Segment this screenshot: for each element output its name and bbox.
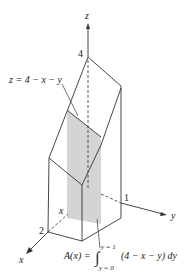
y-axis-label: y (170, 210, 176, 221)
x-axis-hidden (48, 214, 68, 232)
y-tick-label: 1 (124, 192, 129, 203)
integrand: (4 − x − y) dy (121, 250, 178, 262)
diagram-svg: z 4 z = 4 − x − y 1 y x 2 x A(x) = ∫ y =… (0, 0, 191, 276)
lower-limit: y = 0 (98, 264, 114, 272)
y-axis-arrow-icon (160, 212, 167, 216)
cross-section-shade (67, 110, 101, 224)
y-axis-hidden (101, 194, 121, 203)
x-slice-label: x (58, 205, 64, 216)
solid-volume-diagram: z 4 z = 4 − x − y 1 y x 2 x A(x) = ∫ y =… (0, 0, 191, 276)
x-axis-label: x (18, 254, 24, 265)
upper-limit: y = 1 (100, 243, 116, 251)
y-axis (121, 203, 163, 214)
z-tick-label: 4 (78, 48, 83, 59)
z-axis-arrow-icon (86, 23, 90, 29)
x-tick-label: 2 (39, 225, 44, 236)
formula-lhs: A(x) = (63, 250, 90, 262)
z-axis-label: z (84, 10, 89, 21)
surface-label: z = 4 − x − y (8, 74, 63, 85)
